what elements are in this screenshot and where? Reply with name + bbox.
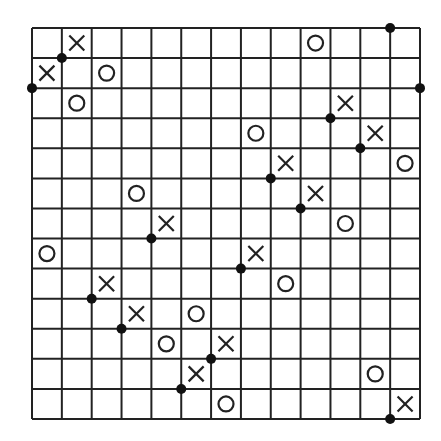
grid-cell[interactable] [390, 269, 420, 299]
grid-cell[interactable] [151, 28, 181, 58]
grid-cell[interactable] [62, 359, 92, 389]
grid-cell[interactable] [62, 269, 92, 299]
grid-cell[interactable] [181, 269, 211, 299]
grid-cell[interactable] [151, 389, 181, 419]
grid-cell[interactable] [360, 299, 390, 329]
grid-cell[interactable] [181, 389, 211, 419]
grid-cell[interactable] [360, 88, 390, 118]
grid-cell[interactable] [211, 148, 241, 178]
grid-cell[interactable] [330, 269, 360, 299]
grid-cell[interactable] [211, 58, 241, 88]
grid-cell[interactable] [151, 299, 181, 329]
grid-cell[interactable] [390, 329, 420, 359]
grid-cell[interactable] [271, 359, 301, 389]
grid-cell[interactable] [271, 389, 301, 419]
grid-cell[interactable] [271, 269, 301, 299]
grid-cell[interactable] [390, 88, 420, 118]
grid-cell[interactable] [271, 58, 301, 88]
grid-cell[interactable] [330, 239, 360, 269]
grid-cell[interactable] [330, 359, 360, 389]
grid-cell[interactable] [122, 239, 152, 269]
grid-cell[interactable] [241, 389, 271, 419]
grid-cell[interactable] [32, 359, 62, 389]
grid-cell[interactable] [92, 389, 122, 419]
grid-cell[interactable] [181, 239, 211, 269]
grid-cell[interactable] [62, 118, 92, 148]
grid-cell[interactable] [181, 299, 211, 329]
grid-cell[interactable] [390, 208, 420, 238]
grid-cell[interactable] [151, 148, 181, 178]
grid-cell[interactable] [390, 28, 420, 58]
grid-cell[interactable] [211, 359, 241, 389]
grid-cell[interactable] [330, 28, 360, 58]
grid-cell[interactable] [360, 269, 390, 299]
grid-cell[interactable] [122, 329, 152, 359]
grid-cell[interactable] [62, 58, 92, 88]
grid-cell[interactable] [241, 148, 271, 178]
grid-cell[interactable] [241, 28, 271, 58]
grid-cell[interactable] [122, 148, 152, 178]
grid-cell[interactable] [330, 178, 360, 208]
grid-cell[interactable] [92, 239, 122, 269]
grid-cell[interactable] [181, 88, 211, 118]
grid-cell[interactable] [92, 148, 122, 178]
grid-cell[interactable] [360, 359, 390, 389]
grid-cell[interactable] [32, 118, 62, 148]
grid-cell[interactable] [92, 208, 122, 238]
grid-cell[interactable] [181, 208, 211, 238]
grid-cell[interactable] [151, 239, 181, 269]
grid-cell[interactable] [181, 58, 211, 88]
grid-cell[interactable] [32, 239, 62, 269]
grid-cell[interactable] [62, 299, 92, 329]
grid-cells[interactable] [32, 28, 420, 419]
grid-cell[interactable] [32, 389, 62, 419]
grid-cell[interactable] [360, 329, 390, 359]
grid-cell[interactable] [151, 88, 181, 118]
grid-cell[interactable] [390, 58, 420, 88]
grid-cell[interactable] [32, 28, 62, 58]
grid-cell[interactable] [360, 208, 390, 238]
grid-cell[interactable] [92, 359, 122, 389]
grid-cell[interactable] [330, 118, 360, 148]
grid-cell[interactable] [122, 118, 152, 148]
grid-cell[interactable] [151, 178, 181, 208]
grid-cell[interactable] [151, 269, 181, 299]
grid-cell[interactable] [330, 148, 360, 178]
grid-cell[interactable] [122, 58, 152, 88]
grid-cell[interactable] [181, 178, 211, 208]
grid-cell[interactable] [241, 88, 271, 118]
grid-cell[interactable] [301, 118, 331, 148]
grid-cell[interactable] [301, 389, 331, 419]
grid-cell[interactable] [32, 299, 62, 329]
grid-cell[interactable] [211, 88, 241, 118]
grid-cell[interactable] [360, 28, 390, 58]
grid-cell[interactable] [390, 118, 420, 148]
grid-cell[interactable] [122, 208, 152, 238]
grid-cell[interactable] [62, 178, 92, 208]
grid-cell[interactable] [211, 28, 241, 58]
grid-cell[interactable] [241, 329, 271, 359]
grid-cell[interactable] [330, 329, 360, 359]
grid-cell[interactable] [32, 208, 62, 238]
grid-cell[interactable] [122, 359, 152, 389]
grid-cell[interactable] [32, 269, 62, 299]
grid-cell[interactable] [62, 239, 92, 269]
grid-cell[interactable] [92, 118, 122, 148]
grid-cell[interactable] [92, 178, 122, 208]
grid-cell[interactable] [301, 208, 331, 238]
grid-cell[interactable] [360, 58, 390, 88]
grid-cell[interactable] [151, 359, 181, 389]
grid-cell[interactable] [301, 359, 331, 389]
grid-cell[interactable] [390, 178, 420, 208]
grid-cell[interactable] [271, 118, 301, 148]
grid-cell[interactable] [241, 269, 271, 299]
grid-cell[interactable] [122, 88, 152, 118]
grid-cell[interactable] [32, 148, 62, 178]
grid-cell[interactable] [92, 58, 122, 88]
grid-cell[interactable] [301, 269, 331, 299]
grid-cell[interactable] [241, 359, 271, 389]
grid-cell[interactable] [151, 118, 181, 148]
grid-cell[interactable] [122, 178, 152, 208]
grid-cell[interactable] [211, 269, 241, 299]
grid-cell[interactable] [62, 88, 92, 118]
